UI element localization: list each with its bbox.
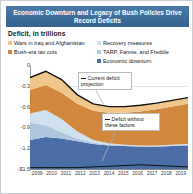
x-axis-tick-0: 2009 <box>30 171 44 181</box>
legend-item-recovery-measures[interactable]: Recovery measures <box>97 40 152 46</box>
x-axis-tick-10: 2019 <box>174 171 188 181</box>
legend-label-wars: Wars in Iraq and Afghanistan <box>14 40 84 46</box>
legend-swatch-recovery-measures <box>97 41 101 45</box>
legend-swatch-wars <box>8 41 12 45</box>
legend-swatch-economic-downturn <box>97 59 101 63</box>
x-axis-tick-1: 2010 <box>44 171 58 181</box>
annotation-without-factors-text: Deficit without these factors <box>105 116 144 128</box>
legend-item-wars[interactable]: Wars in Iraq and Afghanistan <box>8 40 85 46</box>
y-axis-tick-2: -0.9 <box>4 124 30 130</box>
annotation-current-deficit-text: Current deficit projection <box>81 75 120 87</box>
y-axis-tick-4: -0.3 <box>4 83 30 89</box>
x-axis-tick-6: 2015 <box>116 171 130 181</box>
legend-item-economic-downturn[interactable]: Economic downturn <box>97 58 151 64</box>
annotation-current-deficit: Current deficit projection <box>78 72 132 90</box>
legend-label-recovery-measures: Recovery measures <box>103 40 152 46</box>
chart-subtitle: Deficit, in trillions <box>8 30 65 37</box>
legend-label-tarp: TARP, Fannie, and Freddie <box>103 49 169 55</box>
x-axis-tick-9: 2018 <box>159 171 173 181</box>
y-axis-tick-1: -1.2 <box>4 145 30 151</box>
x-axis-tick-2: 2011 <box>59 171 73 181</box>
chart-title-bar: Economic Downturn and Legacy of Bush Pol… <box>6 6 189 27</box>
legend-item-bush-tax-cuts[interactable]: Bush-era tax cuts <box>8 49 57 55</box>
x-axis-tick-5: 2014 <box>102 171 116 181</box>
annotation-without-factors: Deficit without these factors <box>102 113 160 131</box>
legend-item-tarp[interactable]: TARP, Fannie, and Freddie <box>97 49 169 55</box>
y-axis-labels: -$1.5-1.2-0.9-0.6-0.30 <box>1 65 30 175</box>
legend-label-economic-downturn: Economic downturn <box>103 58 151 64</box>
y-axis-tick-0: -$1.5 <box>4 166 30 172</box>
chart-legend: Wars in Iraq and Afghanistan Bush-era ta… <box>8 40 188 68</box>
x-axis-tick-8: 2017 <box>145 171 159 181</box>
chart-card: Economic Downturn and Legacy of Bush Pol… <box>0 0 193 194</box>
x-axis-labels: 2009201020112012201320142015201620172018… <box>30 171 188 181</box>
page-title: Economic Downturn and Legacy of Bush Pol… <box>10 9 185 24</box>
x-axis-line <box>30 169 188 170</box>
line-swatch-current-icon <box>81 78 86 79</box>
line-swatch-without-icon <box>105 119 110 120</box>
x-axis-tick-7: 2016 <box>131 171 145 181</box>
y-axis-tick-5: 0 <box>4 62 30 68</box>
legend-swatch-bush-tax-cuts <box>8 50 12 54</box>
x-axis-tick-4: 2013 <box>87 171 101 181</box>
y-axis-tick-3: -0.6 <box>4 104 30 110</box>
legend-label-bush-tax-cuts: Bush-era tax cuts <box>14 49 57 55</box>
chart-plot-area: -$1.5-1.2-0.9-0.6-0.30 20092010201120122… <box>1 65 193 194</box>
legend-swatch-tarp <box>97 50 101 54</box>
x-axis-tick-3: 2012 <box>73 171 87 181</box>
